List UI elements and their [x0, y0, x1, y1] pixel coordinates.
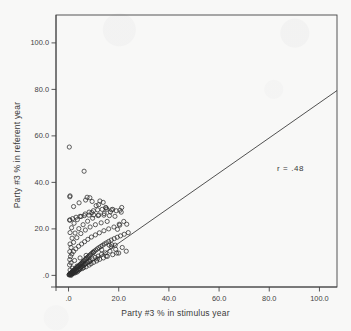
- x-axis-title: Party #3 % in stimulus year: [0, 308, 351, 318]
- y-axis-title: Party #3 % in referent year: [12, 75, 22, 235]
- svg-text:20.0: 20.0: [112, 294, 126, 303]
- correlation-annotation: r = .48: [277, 164, 304, 173]
- scatter-plot-figure: .020.040.060.080.0100.0.020.040.060.080.…: [0, 0, 351, 331]
- svg-text:20.0: 20.0: [35, 224, 49, 233]
- svg-text:100.0: 100.0: [310, 294, 329, 303]
- svg-text:100.0: 100.0: [31, 38, 50, 47]
- svg-text:80.0: 80.0: [262, 294, 276, 303]
- svg-text:40.0: 40.0: [162, 294, 176, 303]
- data-points-group: [67, 145, 130, 278]
- svg-text:60.0: 60.0: [212, 294, 226, 303]
- svg-text:.0: .0: [43, 271, 49, 280]
- svg-text:40.0: 40.0: [35, 178, 49, 187]
- svg-text:.0: .0: [65, 294, 71, 303]
- regression-line: [73, 91, 337, 276]
- svg-text:80.0: 80.0: [35, 85, 49, 94]
- svg-text:60.0: 60.0: [35, 131, 49, 140]
